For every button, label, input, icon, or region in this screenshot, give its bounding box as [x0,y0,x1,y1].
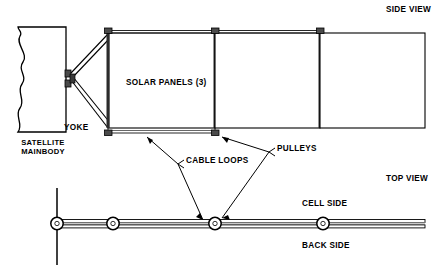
mainbody-outline [18,27,66,132]
yoke-lower-strut-outer [71,80,108,128]
pulley-block-top-1 [105,28,113,34]
cable-loops-leader-down [178,164,203,220]
back-side-label: BACK SIDE [302,241,350,251]
top-view-title: TOP VIEW [386,174,428,184]
panel-3-frame [320,33,425,128]
top-view-pulley-2 [107,217,119,229]
leader-cable-loops [147,137,203,220]
yoke-lower-strut-inner [73,77,111,124]
pulleys-arrowhead-up [222,137,229,143]
cable-loops-leader-stub-a [178,160,184,164]
pulley-block-top-3 [317,28,325,34]
solar-panel-3 [320,33,425,128]
yoke-upper-strut-outer [71,34,108,73]
satellite-mainbody-label-line2: MAINBODY [21,147,65,156]
yoke-upper-strut-inner [72,38,110,78]
satellite-mainbody-label-line1: SATELLITE [21,138,64,147]
pulleys-label: PULLEYS [277,144,317,154]
yoke-structure [70,34,111,128]
yoke-apex-hub [70,74,75,83]
satellite-mainbody-label: SATELLITE MAINBODY [8,139,78,157]
pulleys-leader-stub-b [269,152,275,156]
leader-pulleys [222,137,275,220]
cable-loops-arrowhead-up [147,137,153,144]
top-view-pulley-3 [209,217,221,229]
satellite-mainbody [18,27,66,132]
cable-loops-label: CABLE LOOPS [186,156,248,166]
pulley-block-bottom-2 [212,130,220,136]
satellite-solar-panel-diagram: SIDE VIEW SOLAR PANELS (3) YOKE SATELLIT… [0,0,445,280]
top-view-pulley-4 [317,217,329,229]
pulleys-leader-stub-a [269,148,275,152]
panel-1-left-spar [107,33,110,128]
pulley-block-bottom-1 [105,130,113,136]
solar-panels-label: SOLAR PANELS (3) [126,78,207,88]
pulley-block-top-2 [212,28,220,34]
cell-side-label: CELL SIDE [302,199,347,209]
side-view-title: SIDE VIEW [386,5,431,15]
yoke-label: YOKE [64,123,88,133]
pulleys-leader-up [222,137,269,152]
panel-2-frame [215,33,320,128]
top-view-pulley-1 [51,217,63,229]
solar-panel-2 [215,33,322,128]
